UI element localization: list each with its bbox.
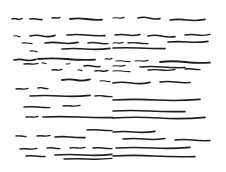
- brush-stroke: [113, 48, 165, 49]
- brush-stroke: [67, 35, 105, 36]
- brush-stroke: [20, 148, 37, 149]
- brush-stroke: [14, 59, 36, 60]
- brush-stroke: [38, 88, 48, 89]
- brush-stroke: [22, 43, 32, 44]
- brush-stroke: [135, 60, 148, 61]
- brush-stroke: [12, 18, 22, 19]
- brush-stroke: [113, 99, 200, 100]
- brush-stroke: [52, 69, 62, 70]
- brush-stroke: [175, 140, 210, 141]
- brush-stroke: [116, 147, 190, 148]
- brush-stroke: [105, 58, 112, 59]
- abstract-stroke-drawing: [0, 0, 226, 172]
- brush-stroke: [140, 67, 185, 68]
- brush-stroke: [42, 63, 46, 64]
- brush-stroke: [16, 136, 26, 137]
- brush-stroke: [24, 63, 38, 64]
- brush-stroke: [93, 148, 112, 149]
- brush-stroke: [185, 69, 200, 70]
- brush-stroke: [160, 61, 210, 63]
- brush-stroke: [113, 42, 123, 43]
- brush-stroke: [14, 36, 20, 37]
- brush-stroke: [128, 43, 148, 44]
- brush-stroke: [26, 156, 45, 157]
- brush-stroke: [84, 66, 100, 67]
- brush-stroke: [62, 48, 110, 49]
- brush-stroke: [64, 158, 112, 159]
- brush-stroke: [37, 135, 50, 136]
- brush-stroke: [113, 155, 195, 156]
- brush-stroke: [113, 82, 150, 83]
- brush-stroke: [113, 117, 205, 118]
- brush-stroke: [168, 41, 208, 42]
- brush-stroke: [113, 17, 124, 18]
- brush-stroke: [47, 148, 60, 149]
- brush-stroke: [63, 105, 80, 106]
- brush-stroke: [148, 69, 175, 70]
- brush-stroke: [30, 51, 37, 52]
- brush-stroke: [38, 58, 95, 60]
- brush-stroke: [16, 88, 28, 89]
- brush-stroke: [138, 17, 160, 19]
- brush-stroke: [78, 70, 82, 71]
- brush-stroke: [115, 34, 140, 35]
- brush-stroke: [66, 63, 70, 64]
- brush-stroke: [170, 19, 205, 20]
- brush-stroke: [70, 147, 85, 148]
- brush-stroke: [95, 70, 108, 71]
- brush-stroke: [160, 82, 190, 83]
- brush-stroke: [24, 107, 50, 108]
- brush-stroke: [148, 35, 175, 37]
- brush-stroke: [62, 79, 90, 80]
- brush-stroke: [30, 35, 55, 36]
- brush-stroke: [70, 18, 102, 19]
- brush-stroke: [123, 138, 165, 139]
- brush-stroke: [116, 61, 130, 62]
- brush-stroke: [95, 96, 112, 97]
- brush-stroke: [55, 137, 85, 138]
- brush-stroke: [88, 43, 108, 44]
- brush-stroke: [113, 111, 185, 112]
- brush-stroke: [113, 71, 130, 72]
- brush-stroke: [30, 19, 42, 20]
- brush-stroke: [45, 42, 78, 43]
- brush-stroke: [55, 154, 112, 155]
- brush-stroke: [100, 81, 110, 82]
- brush-stroke: [26, 116, 38, 117]
- brush-stroke: [52, 17, 60, 18]
- brush-stroke: [185, 34, 210, 35]
- brush-stroke: [43, 117, 113, 118]
- brush-stroke: [87, 130, 112, 131]
- brush-stroke: [113, 131, 155, 132]
- brush-stroke: [30, 95, 90, 96]
- brush-stroke: [113, 65, 125, 66]
